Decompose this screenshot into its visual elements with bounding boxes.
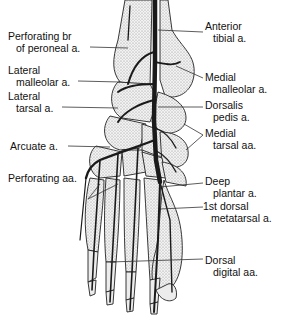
label-line: Deep: [205, 175, 257, 187]
label-line: tarsal a.: [8, 102, 53, 114]
label-line: metatarsal a.: [203, 212, 272, 224]
label-anterior-tibial: Anterior tibial a.: [205, 20, 246, 44]
label-perforating-br-peroneal: Perforating br of peroneal a.: [8, 30, 80, 54]
label-line: digital aa.: [205, 266, 258, 278]
label-line: Perforating aa.: [8, 172, 77, 184]
label-dorsal-digital: Dorsal digital aa.: [205, 254, 258, 278]
label-line: malleolar a.: [205, 83, 267, 95]
label-line: tibial a.: [205, 32, 246, 44]
label-line: of peroneal a.: [8, 42, 80, 54]
label-line: Anterior: [205, 20, 246, 32]
label-line: Medial: [205, 127, 256, 139]
label-line: tarsal aa.: [205, 139, 256, 151]
label-line: Arcuate a.: [10, 140, 58, 152]
label-lateral-tarsal: Lateral tarsal a.: [8, 90, 53, 114]
label-medial-tarsal: Medial tarsal aa.: [205, 127, 256, 151]
label-line: Dorsal: [205, 254, 258, 266]
label-medial-malleolar: Medial malleolar a.: [205, 71, 267, 95]
tarsal-bones: [90, 82, 189, 186]
label-line: 1st dorsal: [203, 200, 272, 212]
label-lateral-malleolar: Lateral malleolar a.: [8, 64, 70, 88]
label-perforating-aa: Perforating aa.: [8, 172, 77, 184]
label-dorsalis-pedis: Dorsalis pedis a.: [205, 99, 250, 123]
label-line: Lateral: [8, 64, 70, 76]
label-line: plantar a.: [205, 187, 257, 199]
label-line: Dorsalis: [205, 99, 250, 111]
label-line: Perforating br: [8, 30, 80, 42]
label-first-dorsal-metatarsal: 1st dorsal metatarsal a.: [203, 200, 272, 224]
label-arcuate: Arcuate a.: [10, 140, 58, 152]
label-line: pedis a.: [205, 111, 250, 123]
label-line: malleolar a.: [8, 76, 70, 88]
label-deep-plantar: Deep plantar a.: [205, 175, 257, 199]
foot-artery-diagram: Perforating br of peroneal a. Lateral ma…: [0, 0, 283, 315]
label-line: Medial: [205, 71, 267, 83]
label-line: Lateral: [8, 90, 53, 102]
